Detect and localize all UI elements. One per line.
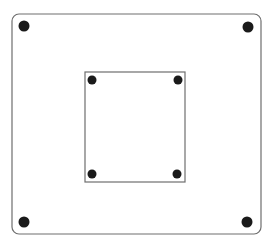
inner-corner-dot-0 <box>88 76 97 85</box>
outer-corner-dot-3 <box>242 217 253 228</box>
outer-corner-dot-0 <box>19 21 30 32</box>
outer-rectangle <box>12 14 261 234</box>
outer-corner-dots <box>19 21 254 228</box>
inner-corner-dot-2 <box>88 170 97 179</box>
inner-corner-dot-3 <box>173 170 182 179</box>
inner-rectangle <box>85 72 185 182</box>
outer-corner-dot-1 <box>243 22 254 33</box>
outer-corner-dot-2 <box>19 217 30 228</box>
inner-corner-dot-1 <box>174 76 183 85</box>
inner-corner-dots <box>88 76 183 179</box>
diagram-canvas <box>0 0 270 243</box>
